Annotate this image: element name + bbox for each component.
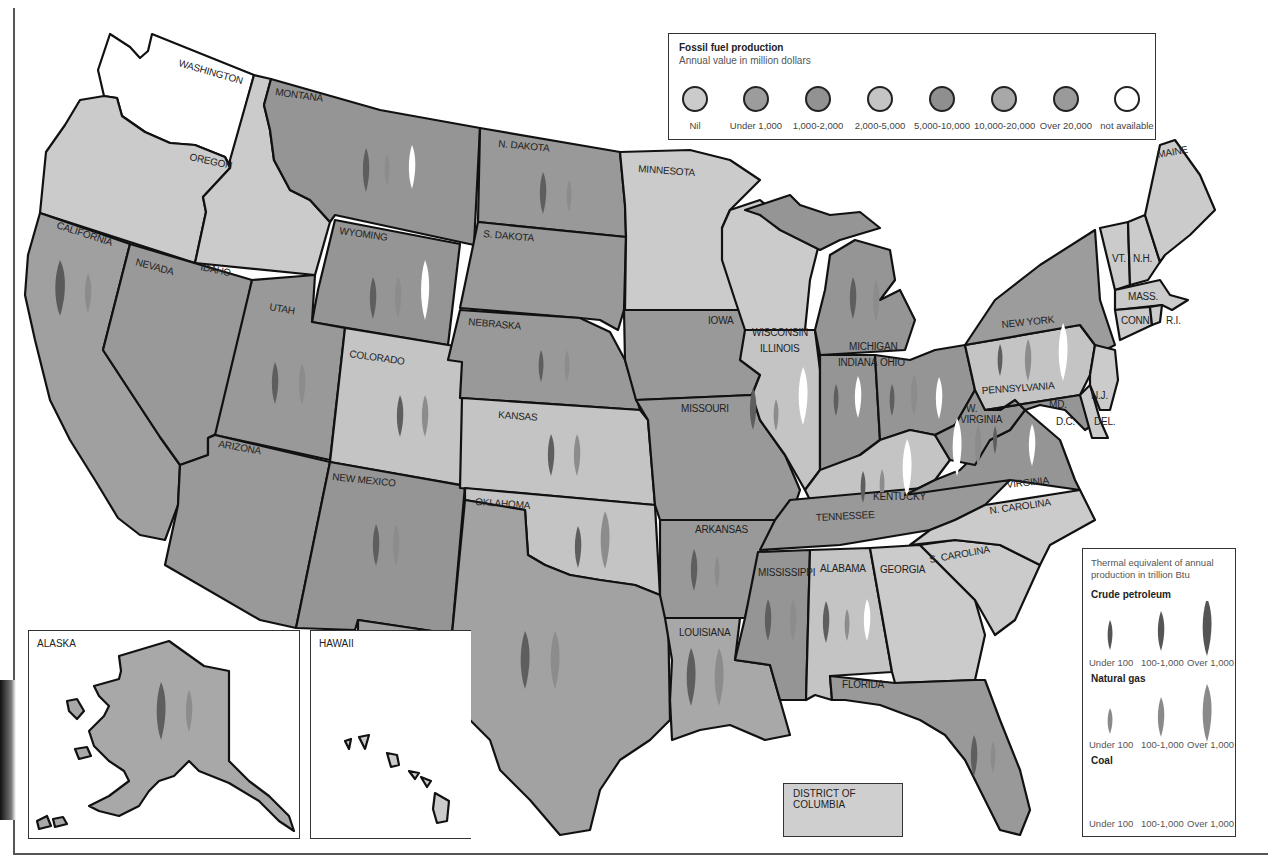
gas-medium-icon — [1158, 697, 1164, 737]
legend-class-nil: Nil — [665, 86, 725, 131]
state-michigan[interactable] — [815, 240, 915, 355]
label-mississippi: MISSISSIPPI — [758, 567, 815, 578]
district-of-columbia-box[interactable]: DISTRICT OF COLUMBIA — [783, 783, 903, 837]
legend-class-2000-5000: 2,000-5,000 — [850, 86, 910, 131]
size-label: 100-1,000 — [1141, 818, 1184, 829]
label-md: MD. — [1049, 399, 1067, 410]
alaska-inset: ALASKA — [28, 630, 300, 839]
label-wisconsin: WISCONSIN — [752, 327, 808, 338]
label-arkansas: ARKANSAS — [695, 524, 748, 535]
class-swatch-icon — [1114, 86, 1140, 112]
class-swatch-icon — [929, 86, 955, 112]
legend-title: Fossil fuel production — [679, 42, 783, 53]
label-louisiana: LOUISIANA — [679, 627, 731, 638]
class-swatch-icon — [867, 86, 893, 112]
size-label: Under 100 — [1089, 739, 1133, 750]
label-missouri: MISSOURI — [681, 403, 729, 414]
legend-class-label: 2,000-5,000 — [850, 120, 910, 131]
label-illinois: ILLINOIS — [760, 343, 800, 354]
petroleum-medium-icon — [1158, 611, 1164, 651]
legend-class-label: 10,000-20,000 — [974, 120, 1034, 131]
value-legend: Fossil fuel production Annual value in m… — [668, 33, 1156, 140]
label-nj: N.J. — [1091, 390, 1108, 401]
label-iowa: IOWA — [708, 315, 734, 326]
gas-symbols — [1083, 683, 1235, 743]
label-florida: FLORIDA — [842, 679, 884, 690]
island — [359, 735, 369, 749]
legend-petroleum-heading: Crude petroleum — [1091, 589, 1171, 600]
gas-large-icon — [1203, 684, 1212, 742]
legend-subtitle: Annual value in million dollars — [679, 55, 811, 66]
class-swatch-icon — [1053, 86, 1079, 112]
size-label: Over 1,000 — [1187, 657, 1234, 668]
symbol-legend-title: Thermal equivalent of annual production … — [1091, 557, 1231, 581]
class-swatch-icon — [991, 86, 1017, 112]
label-michigan: MICHIGAN — [849, 341, 897, 352]
label-kentucky: KENTUCKY — [873, 491, 926, 502]
size-label: 100-1,000 — [1141, 739, 1184, 750]
legend-class-label: not available — [1097, 120, 1157, 131]
legend-coal-heading: Coal — [1091, 755, 1113, 766]
size-label: 100-1,000 — [1141, 657, 1184, 668]
island — [421, 777, 431, 787]
class-swatch-icon — [743, 86, 769, 112]
size-label: Under 100 — [1089, 818, 1133, 829]
label-ri: R.I. — [1166, 315, 1181, 326]
label-ohio: OHIO — [880, 357, 905, 368]
island — [345, 739, 351, 749]
legend-class-not-available: not available — [1097, 86, 1157, 131]
class-swatch-icon — [682, 86, 708, 112]
legend-class-over-20000: Over 20,000 — [1036, 86, 1096, 131]
legend-class-label: 1,000-2,000 — [788, 120, 848, 131]
legend-class-label: Over 20,000 — [1036, 120, 1096, 131]
label-dc: D.C. — [1056, 416, 1075, 427]
size-label: Over 1,000 — [1187, 739, 1234, 750]
legend-class-label: Nil — [665, 120, 725, 131]
size-label: Over 1,000 — [1187, 818, 1234, 829]
island-big — [433, 793, 449, 823]
petroleum-large-icon — [1203, 601, 1212, 656]
symbol-legend: Thermal equivalent of annual production … — [1082, 548, 1236, 837]
legend-class-1000-2000: 1,000-2,000 — [788, 86, 848, 131]
legend-class-under-1000: Under 1,000 — [726, 86, 786, 131]
label-w-virginia-2: VIRGINIA — [960, 414, 1003, 425]
state-kansas[interactable] — [460, 398, 655, 505]
legend-class-5000-10000: 5,000-10,000 — [912, 86, 972, 131]
legend-class-label: 5,000-10,000 — [912, 120, 972, 131]
petroleum-symbols — [1083, 601, 1235, 661]
label-del: DEL. — [1094, 416, 1115, 427]
label-alabama: ALABAMA — [820, 563, 866, 574]
petroleum-small-icon — [1108, 620, 1113, 650]
island — [409, 771, 419, 779]
size-label: Under 100 — [1089, 657, 1133, 668]
label-district-of-columbia: DISTRICT OF COLUMBIA — [793, 788, 902, 810]
label-w-virginia-1: W. — [966, 403, 977, 414]
class-swatch-icon — [805, 86, 831, 112]
state-alaska[interactable] — [89, 641, 294, 831]
label-conn: CONN. — [1121, 315, 1152, 326]
label-indiana: INDIANA — [838, 357, 878, 368]
label-georgia: GEORGIA — [880, 564, 926, 575]
gas-small-icon — [1108, 708, 1113, 734]
legend-class-label: Under 1,000 — [726, 120, 786, 131]
state-new-york[interactable] — [965, 230, 1115, 350]
label-mass: MASS. — [1128, 291, 1158, 302]
island — [387, 753, 399, 767]
legend-class-10000-20000: 10,000-20,000 — [974, 86, 1034, 131]
hawaii-inset: HAWAII — [310, 630, 471, 839]
label-nh: N.H. — [1133, 253, 1152, 264]
label-vt: VT. — [1112, 253, 1126, 264]
state-maine[interactable] — [1145, 140, 1215, 262]
